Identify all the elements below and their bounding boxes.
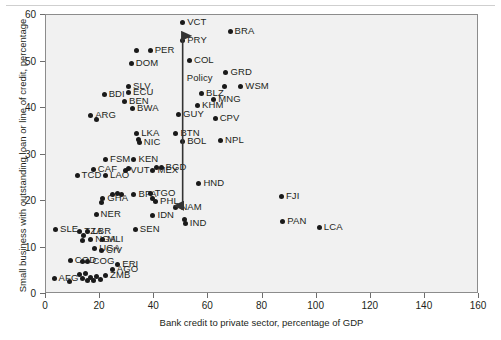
data-point <box>180 38 185 43</box>
data-point <box>199 91 204 96</box>
data-point <box>150 213 155 218</box>
data-point <box>130 106 135 111</box>
data-point <box>88 113 93 118</box>
data-point <box>99 200 104 205</box>
x-axis-tick-label: 100 <box>307 300 324 311</box>
x-axis-tick-label: 80 <box>256 300 267 311</box>
data-point <box>134 131 139 136</box>
data-point-label: HND <box>203 178 224 188</box>
data-point-label: PHL <box>160 196 179 206</box>
x-axis-tick <box>370 293 371 298</box>
data-point-label: NPL <box>225 135 244 145</box>
data-point-label: DOM <box>136 58 158 68</box>
y-axis-tick <box>40 14 45 15</box>
data-point <box>94 117 99 122</box>
data-point-label: PAN <box>287 216 306 226</box>
data-point <box>68 258 73 263</box>
x-axis-tick <box>99 293 100 298</box>
data-point <box>182 217 187 222</box>
data-point <box>187 58 192 63</box>
data-point <box>223 70 228 75</box>
data-point <box>134 48 139 53</box>
data-point-label: BDI <box>109 89 125 99</box>
top-divider-rule <box>6 5 495 6</box>
data-point <box>153 199 158 204</box>
data-point <box>103 157 108 162</box>
y-axis-tick <box>40 107 45 108</box>
data-point <box>180 139 185 144</box>
data-point <box>98 277 103 282</box>
data-point-label: GUY <box>183 109 204 119</box>
data-point-label: FJI <box>286 191 300 201</box>
data-point-label: BRA <box>235 26 255 36</box>
data-point <box>126 84 131 89</box>
data-point-label: LAO <box>110 170 129 180</box>
y-axis-title: Small business with outstanding loan or … <box>17 6 28 306</box>
x-axis-tick-label: 140 <box>416 300 433 311</box>
data-point <box>131 157 136 162</box>
data-point <box>180 20 185 25</box>
data-point <box>280 219 285 224</box>
data-point <box>122 99 127 104</box>
data-point <box>100 237 105 242</box>
data-point-label: BOL <box>187 136 206 146</box>
data-point-label: FSM <box>110 154 130 164</box>
data-point-label: NIC <box>144 137 161 147</box>
data-point <box>150 168 155 173</box>
x-axis-tick-label: 160 <box>470 300 487 311</box>
data-point <box>195 103 200 108</box>
x-axis-tick-label: 0 <box>42 300 48 311</box>
y-axis-tick <box>40 247 45 248</box>
data-point <box>103 173 108 178</box>
data-point-label: AGO <box>117 264 138 274</box>
data-point <box>176 112 181 117</box>
data-point-label: PER <box>155 45 175 55</box>
data-point-label: NER <box>101 209 121 219</box>
data-point-label: TCD <box>82 170 102 180</box>
data-point-label: KEN <box>138 154 158 164</box>
data-point <box>80 238 85 243</box>
data-point <box>173 205 178 210</box>
plot-area: VCTBRAPRYPERCOLDOMGRDWSMSLVECUBDIBLZMNGB… <box>45 14 478 293</box>
plot-points-layer: VCTBRAPRYPERCOLDOMGRDWSMSLVECUBDIBLZMNGB… <box>46 15 477 292</box>
data-point <box>228 29 233 34</box>
x-axis-tick <box>424 293 425 298</box>
x-axis-tick <box>262 293 263 298</box>
x-axis-tick-label: 60 <box>202 300 213 311</box>
data-point-label: GRD <box>230 67 251 77</box>
x-axis-tick <box>316 293 317 298</box>
data-point <box>67 279 72 284</box>
data-point <box>136 137 141 142</box>
data-point <box>52 276 57 281</box>
data-point-label: LCA <box>324 222 343 232</box>
data-point-label: PRY <box>187 35 207 45</box>
data-point <box>173 131 178 136</box>
data-point-label: CPV <box>220 113 240 123</box>
data-point-label: SEN <box>140 224 160 234</box>
x-axis-tick <box>153 293 154 298</box>
data-point <box>129 61 134 66</box>
data-point <box>80 259 85 264</box>
data-point <box>88 237 93 242</box>
x-axis-tick-label: 40 <box>148 300 159 311</box>
data-point <box>102 92 107 97</box>
data-point <box>92 246 97 251</box>
x-axis-tick <box>45 293 46 298</box>
data-point <box>279 194 284 199</box>
data-point <box>196 181 201 186</box>
data-point-label: BFA <box>138 189 156 199</box>
data-point <box>80 276 85 281</box>
y-axis-tick <box>40 293 45 294</box>
data-point <box>317 225 322 230</box>
data-point <box>131 192 136 197</box>
data-point-label: COL <box>194 55 214 65</box>
data-point <box>103 273 108 278</box>
chart-figure: VCTBRAPRYPERCOLDOMGRDWSMSLVECUBDIBLZMNGB… <box>0 0 501 340</box>
data-point-label: VUT <box>130 165 149 175</box>
y-axis-tick <box>40 61 45 62</box>
x-axis-tick-label: 20 <box>94 300 105 311</box>
data-point-label: GHA <box>107 193 128 203</box>
y-axis-tick <box>40 154 45 155</box>
data-point <box>53 227 58 232</box>
data-point <box>99 248 104 253</box>
